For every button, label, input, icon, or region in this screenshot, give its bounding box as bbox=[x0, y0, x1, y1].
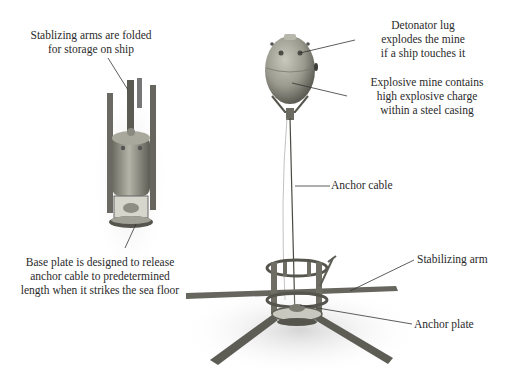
label-detonator-lug: Detonator lug explodes the mine if a shi… bbox=[348, 18, 498, 60]
label-explosive-mine: Explosive mine contains high explosive c… bbox=[342, 75, 512, 117]
stowed-mine bbox=[92, 78, 168, 280]
label-anchor-plate: Anchor plate bbox=[414, 317, 474, 331]
label-stabilizing-arm: Stabilizing arm bbox=[417, 252, 488, 266]
label-base-plate: Base plate is designed to release anchor… bbox=[0, 255, 200, 297]
label-anchor-cable: Anchor cable bbox=[331, 178, 393, 192]
label-folded-arms: Stablizing arms are folded for storage o… bbox=[6, 28, 176, 56]
